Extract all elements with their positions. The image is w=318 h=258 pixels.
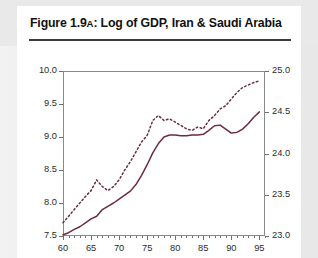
- x-axis-label: 80: [160, 243, 190, 253]
- x-tick-minor: [243, 236, 244, 238]
- y-tick-left: [59, 71, 63, 72]
- x-axis-label: 70: [104, 243, 134, 253]
- y-tick-right: [265, 195, 269, 196]
- x-tick-minor: [114, 236, 115, 238]
- x-tick-minor: [108, 236, 109, 238]
- x-tick-minor: [209, 236, 210, 238]
- x-tick-minor: [192, 236, 193, 238]
- y-tick-right: [265, 71, 269, 72]
- y-axis-label-left: 10.0: [21, 65, 57, 75]
- title-divider: [29, 39, 291, 41]
- x-tick-major: [203, 236, 204, 240]
- y-tick-left: [59, 203, 63, 204]
- x-tick-minor: [254, 236, 255, 238]
- x-tick-minor: [136, 236, 137, 238]
- x-tick-major: [259, 236, 260, 240]
- x-tick-minor: [181, 236, 182, 238]
- x-tick-minor: [226, 236, 227, 238]
- x-tick-minor: [130, 236, 131, 238]
- x-tick-minor: [102, 236, 103, 238]
- x-tick-minor: [198, 236, 199, 238]
- y-tick-right: [265, 154, 269, 155]
- series-line-saudi-arabia: [63, 81, 259, 223]
- y-tick-right: [265, 112, 269, 113]
- chart-curves: [63, 71, 265, 236]
- x-axis-label: 65: [76, 243, 106, 253]
- x-tick-major: [231, 236, 232, 240]
- x-tick-minor: [153, 236, 154, 238]
- x-tick-minor: [186, 236, 187, 238]
- x-tick-minor: [158, 236, 159, 238]
- y-axis-label-right: 25.0: [272, 65, 308, 75]
- x-tick-minor: [265, 236, 266, 238]
- x-tick-minor: [85, 236, 86, 238]
- x-tick-minor: [69, 236, 70, 238]
- y-axis-label-right: 24.5: [272, 106, 308, 116]
- x-tick-minor: [220, 236, 221, 238]
- figure-title-prefix: Figure 1.9: [30, 16, 87, 30]
- x-tick-major: [147, 236, 148, 240]
- x-axis-label: 85: [188, 243, 218, 253]
- y-axis-label-right: 23.0: [272, 230, 308, 240]
- x-tick-minor: [248, 236, 249, 238]
- figure-title-rest: : Log of GDP, Iran & Saudi Arabia: [93, 16, 281, 30]
- y-axis-label-right: 23.5: [272, 189, 308, 199]
- series-line-iran: [63, 112, 259, 235]
- x-tick-minor: [97, 236, 98, 238]
- y-tick-left: [59, 137, 63, 138]
- x-axis-label: 90: [216, 243, 246, 253]
- figure-page: Figure 1.9A: Log of GDP, Iran & Saudi Ar…: [0, 0, 318, 258]
- y-axis-label-left: 9.5: [21, 98, 57, 108]
- x-tick-minor: [164, 236, 165, 238]
- y-axis-label-left: 8.5: [21, 164, 57, 174]
- x-tick-minor: [125, 236, 126, 238]
- y-axis-label-left: 8.0: [21, 197, 57, 207]
- chart-plot-area: 7.58.08.59.09.510.023.023.524.024.525.06…: [17, 46, 301, 258]
- y-tick-left: [59, 170, 63, 171]
- x-tick-minor: [80, 236, 81, 238]
- y-tick-left: [59, 104, 63, 105]
- x-tick-major: [175, 236, 176, 240]
- figure-title: Figure 1.9A: Log of GDP, Iran & Saudi Ar…: [30, 16, 282, 30]
- x-tick-major: [119, 236, 120, 240]
- x-tick-minor: [170, 236, 171, 238]
- x-tick-major: [63, 236, 64, 240]
- x-axis-label: 95: [244, 243, 274, 253]
- figure-card: Figure 1.9A: Log of GDP, Iran & Saudi Ar…: [17, 6, 301, 258]
- x-tick-minor: [142, 236, 143, 238]
- y-axis-label-right: 24.0: [272, 148, 308, 158]
- x-tick-minor: [74, 236, 75, 238]
- x-axis-label: 60: [48, 243, 78, 253]
- x-axis-label: 75: [132, 243, 162, 253]
- x-tick-minor: [215, 236, 216, 238]
- x-tick-major: [91, 236, 92, 240]
- x-tick-minor: [237, 236, 238, 238]
- y-axis-label-left: 7.5: [21, 230, 57, 240]
- y-axis-label-left: 9.0: [21, 131, 57, 141]
